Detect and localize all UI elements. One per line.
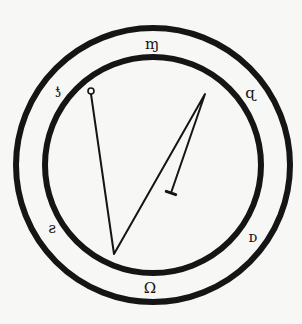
sigil-line — [91, 94, 205, 254]
start-circle-marker — [88, 88, 94, 94]
outer-ring — [16, 28, 290, 302]
end-bar-marker — [166, 191, 175, 194]
glyph-top: ɱ — [145, 37, 159, 52]
glyph-upper-right: ɋ — [245, 86, 255, 101]
glyph-upper-left: ƾ — [54, 85, 62, 100]
glyph-lower-left: ƨ — [48, 221, 56, 236]
inner-ring — [45, 57, 261, 273]
glyph-lower-right: ᴅ — [249, 230, 258, 245]
glyph-bottom: Ω — [144, 281, 156, 296]
